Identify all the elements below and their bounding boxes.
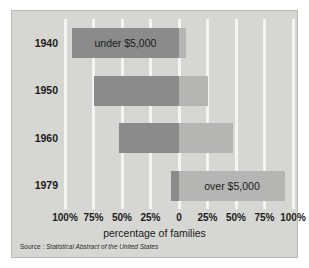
x-axis-tick-labels: 100%75%50%25%025%50%75%100% xyxy=(65,212,293,226)
year-label-1940: 1940 xyxy=(12,37,58,49)
chart-row: under $5,000 xyxy=(65,19,293,67)
bar-group-1950 xyxy=(65,76,293,106)
x-tick-pos25: 25% xyxy=(197,212,217,223)
bar-group-1960 xyxy=(65,123,293,153)
bar-annotation-1979: over $5,000 xyxy=(179,171,285,201)
x-tick-neg75: 75% xyxy=(83,212,103,223)
chart-figure: under $5,000over $5,000 100%75%50%25%025… xyxy=(0,0,309,268)
plot-area: under $5,000over $5,000 xyxy=(65,19,293,209)
x-tick-zero0: 0 xyxy=(176,212,182,223)
x-tick-pos50: 50% xyxy=(226,212,246,223)
bar-over-1940 xyxy=(179,28,186,58)
chart-row xyxy=(65,114,293,162)
source-note: Source : Statistical Abstract of the Uni… xyxy=(20,243,158,250)
bar-over-1960 xyxy=(179,123,233,153)
bar-under-1950 xyxy=(94,76,180,106)
bar-group-1940: under $5,000 xyxy=(65,28,293,58)
year-label-1979: 1979 xyxy=(12,179,58,191)
bar-under-1979 xyxy=(171,171,179,201)
chart-row: over $5,000 xyxy=(65,162,293,210)
year-label-1950: 1950 xyxy=(12,84,58,96)
year-label-1960: 1960 xyxy=(12,132,58,144)
bar-annotation-1940: under $5,000 xyxy=(72,28,179,58)
chart-panel: under $5,000over $5,000 100%75%50%25%025… xyxy=(11,10,298,258)
x-tick-neg100: 100% xyxy=(52,212,78,223)
x-tick-pos75: 75% xyxy=(254,212,274,223)
bar-over-1950 xyxy=(179,76,208,106)
x-tick-neg50: 50% xyxy=(112,212,132,223)
x-axis-title: percentage of families xyxy=(12,227,297,239)
bar-group-1979: over $5,000 xyxy=(65,171,293,201)
x-tick-pos100: 100% xyxy=(280,212,306,223)
x-tick-neg25: 25% xyxy=(140,212,160,223)
bar-under-1960 xyxy=(119,123,179,153)
source-label: Source : xyxy=(20,243,44,250)
source-title: Statistical Abstract of the United State… xyxy=(46,243,158,250)
chart-row xyxy=(65,67,293,115)
